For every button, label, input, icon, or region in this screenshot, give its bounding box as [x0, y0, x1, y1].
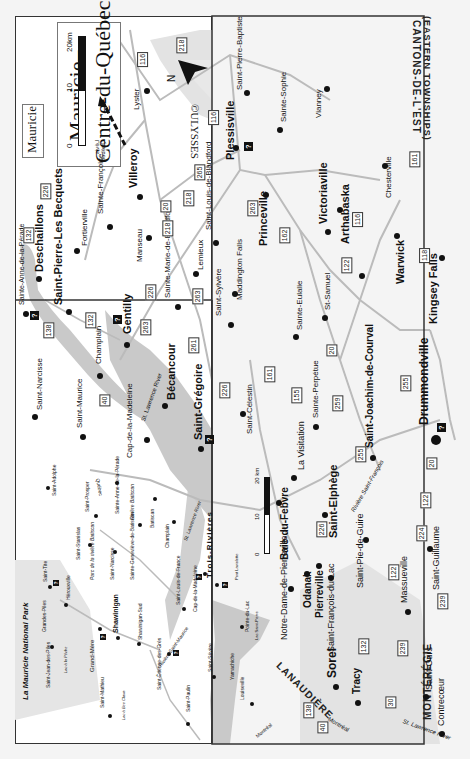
- region-eastern-townships: (EASTERN TOWNSHIPS): [422, 16, 432, 141]
- tourist-info-icon: ?: [222, 582, 228, 588]
- inset-place-saint-louis-de-france[interactable]: Saint-Louis-de-France: [176, 556, 181, 605]
- place-princeville[interactable]: Princeville: [258, 191, 269, 246]
- route-shield: 226: [316, 522, 327, 538]
- place-saint-pierre-baptiste[interactable]: Saint-Pierre-Baptiste: [236, 16, 244, 90]
- inset-place-saint-tite[interactable]: Saint-Tite: [43, 561, 48, 582]
- place-manseau[interactable]: Manseau: [136, 229, 144, 262]
- route-shield: 255: [355, 447, 366, 463]
- inset-place-sainte-genevieve-de-batiscan[interactable]: Sainte-Geneviève-de-Batiscan: [130, 512, 135, 580]
- route-shield: 116: [137, 52, 148, 67]
- place-gentilly[interactable]: Gentilly: [122, 294, 133, 334]
- route-shield: 116: [208, 110, 219, 125]
- place-sainte-marie-de-blandford[interactable]: Sainte-Marie-de-Blandford: [164, 204, 172, 298]
- place-sorel[interactable]: Sorel: [326, 648, 338, 678]
- place-becancour[interactable]: Bécancour: [166, 343, 177, 400]
- place-warwick[interactable]: Warwick: [395, 240, 406, 284]
- place-drummondville[interactable]: Drummondville: [418, 338, 430, 425]
- place-champlain[interactable]: Champlain: [95, 326, 103, 364]
- inset-place-herouxville[interactable]: Hérouxville: [66, 575, 71, 600]
- tourist-info-icon: ?: [196, 574, 202, 580]
- route-shield: 40: [99, 395, 110, 407]
- inset-place-parc-riviere-batiscan[interactable]: Parc de la rivière Batiscan: [90, 522, 95, 580]
- place-dot: [116, 636, 120, 640]
- place-saint-celestin[interactable]: Saint-Célestin: [246, 384, 254, 434]
- route-shield: 30: [385, 697, 396, 709]
- inset-place-batiscan[interactable]: Batiscan: [150, 509, 155, 528]
- place-dot: [182, 607, 186, 611]
- place-saint-joachim-de-courval[interactable]: Saint-Joachim-de-Courval: [365, 324, 375, 448]
- inset-place-saint-jean-des-piles[interactable]: Saint-Jean-des-Piles: [46, 642, 51, 688]
- place-saint-ours[interactable]: Saint-Ours: [425, 647, 434, 690]
- place-st-samuel[interactable]: St-Samuel: [324, 273, 332, 310]
- tourist-info-icon: ?: [53, 580, 59, 586]
- place-chesterville[interactable]: Chesterville: [385, 156, 393, 198]
- place-villeroy[interactable]: Villeroy: [128, 148, 139, 188]
- inset-place-saint-paulin[interactable]: Saint-Paulin: [186, 685, 191, 712]
- place-dot: [324, 86, 330, 92]
- place-la-visitation[interactable]: La Visitation: [297, 421, 306, 470]
- place-saint-gregoire[interactable]: Saint-Grégoire: [193, 364, 204, 440]
- place-massueville[interactable]: Massueville: [400, 556, 409, 603]
- inset-place-saint-narcisse[interactable]: Saint-Narcisse: [110, 547, 115, 580]
- place-sainte-eulalie[interactable]: Sainte-Eulalie: [296, 281, 304, 330]
- place-saint-louis-de-blandford[interactable]: Saint-Louis-de-Blandford: [205, 142, 213, 231]
- place-dot: [74, 248, 80, 254]
- inset-place-louiseville[interactable]: Louiseville: [240, 677, 245, 700]
- inset-place-shawinigan-sud[interactable]: Shawinigan-Sud: [138, 604, 143, 640]
- inset-place-sainte-anne-de-la-perade[interactable]: Sainte-Anne-de-la-Pérade: [115, 456, 120, 514]
- place-dot: [250, 702, 254, 706]
- inset-place-lac-a-bee-clava: Lac à Bee Clava: [122, 691, 126, 720]
- place-fortierville[interactable]: Fortierville: [81, 209, 89, 246]
- place-saint-maurice[interactable]: Saint-Maurice: [76, 379, 84, 428]
- place-contrecoeur[interactable]: Contrecœur: [437, 678, 446, 726]
- place-dot: [175, 304, 181, 310]
- place-maddington-falls[interactable]: Maddington Falls: [236, 239, 244, 300]
- place-sainte-sophie[interactable]: Sainte-Sophie: [280, 72, 288, 122]
- place-dot: [322, 315, 328, 321]
- inset-place-saint-severe[interactable]: Saint-Sévère: [208, 643, 213, 672]
- place-plessisville[interactable]: Plessisville: [225, 101, 236, 160]
- place-dot: [124, 342, 130, 348]
- inset-place-saint-mathieu[interactable]: Saint-Mathieu: [100, 677, 105, 708]
- place-cap-de-la-madeleine[interactable]: Cap-de-la-Madeleine: [126, 383, 134, 458]
- place-dot: [355, 700, 361, 706]
- route-shield: 40: [317, 722, 328, 734]
- tourist-info-icon: ?: [437, 423, 446, 432]
- place-lemieux[interactable]: Lemieux: [197, 240, 205, 270]
- place-saint-guillaume[interactable]: Saint-Guillaume: [432, 526, 441, 590]
- place-saint-francois-du-lac[interactable]: Saint-François-du-Lac: [327, 563, 336, 652]
- place-vianney[interactable]: Vianney: [315, 89, 323, 118]
- place-saint-elphege[interactable]: Saint-Elphège: [328, 465, 339, 538]
- inset-place-trois-rivieres[interactable]: Trois-Rivières: [206, 511, 214, 578]
- place-saint-sylvere[interactable]: Saint-Sylvère: [215, 268, 223, 316]
- inset-place-saint-adolphe[interactable]: Saint-Adolphe: [52, 465, 57, 496]
- place-sainte-perpetue[interactable]: Sainte-Perpétue: [312, 360, 320, 418]
- place-deschaillons[interactable]: Deschaillons: [34, 204, 45, 272]
- inset-place-cap-de-la-madeleine[interactable]: Cap-de-la-Madeleine: [193, 565, 198, 612]
- place-lyster[interactable]: Lyster: [133, 89, 141, 111]
- place-saint-pierre-les-becquets[interactable]: Saint-Pierre-Les Becquets: [53, 168, 64, 305]
- place-saint-narcisse[interactable]: Saint-Narcisse: [36, 358, 44, 410]
- place-victoriaville[interactable]: Victoriaville: [318, 162, 329, 224]
- place-odanak[interactable]: Odanak: [303, 571, 313, 608]
- inset-place-grandes-piles[interactable]: Grandes-Piles: [42, 600, 47, 632]
- route-shield: 226: [145, 285, 156, 301]
- place-notre-dame-de-pierreville[interactable]: Notre-Dame-de-Pierreville: [280, 535, 289, 640]
- place-arthabaska[interactable]: Arthabaska: [340, 184, 351, 244]
- route-shield: 263: [247, 201, 258, 217]
- route-shield: 20: [326, 345, 337, 357]
- inset-place-grand-mere[interactable]: Grand-Mère: [89, 640, 95, 672]
- inset-place-saint-stanislas[interactable]: Saint-Stanislas: [76, 527, 81, 560]
- inset-place-champlain[interactable]: Champlain: [165, 524, 170, 548]
- place-tracy[interactable]: Tracy: [352, 668, 362, 694]
- place-pierreville[interactable]: Pierreville: [315, 570, 325, 618]
- inset-place-pointe-du-lac[interactable]: Pointe-du-Lac: [245, 601, 250, 632]
- inset-place-shawinigan[interactable]: Shawinigan: [112, 594, 119, 633]
- inset-place-saint-prosper[interactable]: Saint-Prosper: [85, 481, 90, 512]
- place-dot: [405, 609, 411, 615]
- place-kingsey-falls[interactable]: Kingsey Falls: [428, 253, 439, 324]
- place-saint-pie-de-guire[interactable]: Saint-Pie-de-Guire: [356, 513, 365, 588]
- inset-place-la-mauricie-park[interactable]: La Mauricie National Park: [22, 603, 30, 700]
- inset-place-yamachiche[interactable]: Yamachiche: [230, 653, 235, 680]
- place-sainte-francoise[interactable]: Sainte-Françoise: [97, 154, 105, 214]
